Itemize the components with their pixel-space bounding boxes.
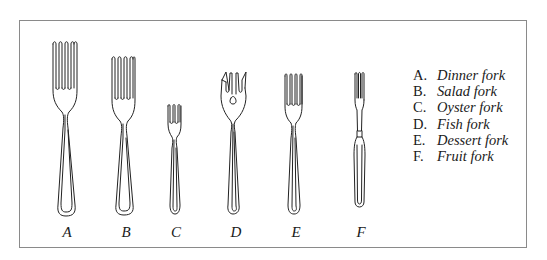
fork-label-f: F (351, 223, 371, 241)
legend-name: Dinner fork (437, 67, 505, 83)
legend-letter: D. (413, 116, 437, 132)
oyster-fork-icon (168, 105, 181, 215)
legend-letter: C. (413, 99, 437, 115)
legend-name: Fish fork (437, 116, 490, 132)
fork-label-b: B (116, 223, 136, 241)
legend-item: F. Fruit fork (413, 148, 508, 164)
fork-label-c: C (166, 223, 186, 241)
legend-name: Salad fork (437, 83, 497, 99)
legend-letter: A. (413, 67, 437, 83)
legend-letter: F. (413, 148, 437, 164)
legend: A. Dinner fork B. Salad fork C. Oyster f… (413, 67, 508, 164)
fish-fork-icon (221, 72, 246, 214)
fork-label-e: E (286, 223, 306, 241)
salad-fork-icon (112, 57, 135, 215)
fork-label-a: A (57, 223, 77, 241)
legend-name: Fruit fork (437, 148, 494, 164)
legend-item: A. Dinner fork (413, 67, 508, 83)
fork-label-d: D (226, 223, 246, 241)
legend-item: B. Salad fork (413, 83, 508, 99)
legend-item: D. Fish fork (413, 116, 508, 132)
legend-name: Dessert fork (437, 132, 508, 148)
dinner-fork-icon (53, 42, 77, 216)
legend-letter: E. (413, 132, 437, 148)
legend-name: Oyster fork (437, 99, 503, 115)
legend-item: C. Oyster fork (413, 99, 508, 115)
fruit-fork-icon (354, 73, 365, 208)
legend-item: E. Dessert fork (413, 132, 508, 148)
legend-letter: B. (413, 83, 437, 99)
dessert-fork-icon (285, 74, 302, 214)
